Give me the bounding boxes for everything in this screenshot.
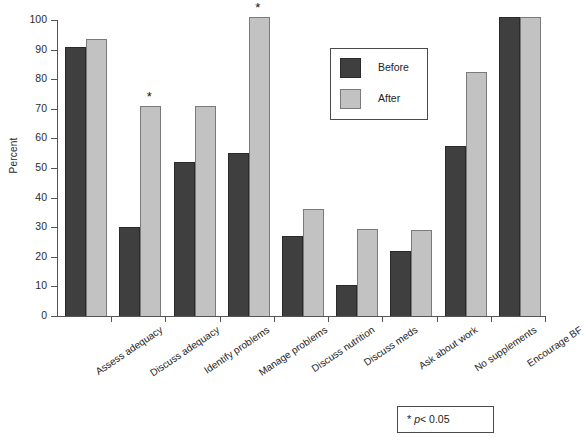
y-axis-tick-label: 80 — [35, 72, 47, 84]
significance-star-icon: * — [255, 1, 260, 14]
bar-after — [140, 106, 161, 316]
y-axis-title: Percent — [8, 121, 19, 191]
x-axis-tick — [382, 316, 383, 322]
y-axis-tick: 90 — [51, 50, 57, 51]
x-axis-tick — [491, 316, 492, 322]
bar-before — [390, 251, 411, 316]
y-axis-tick-label: 30 — [35, 220, 47, 232]
bar-after — [249, 17, 270, 316]
x-axis-label: No supplements — [472, 324, 538, 374]
y-axis-line — [57, 20, 58, 317]
footnote-star-icon: * — [407, 413, 411, 425]
bar-before — [499, 17, 520, 316]
y-axis-tick-label: 10 — [35, 279, 47, 291]
bar-before — [228, 153, 249, 316]
x-axis-label: Ask about work — [417, 324, 480, 371]
bar-before — [336, 285, 357, 316]
bar-after — [411, 230, 432, 316]
legend-label-before: Before — [378, 61, 409, 73]
y-axis-tick-label: 40 — [35, 191, 47, 203]
bar-after — [466, 72, 487, 316]
y-axis-tick: 0 — [51, 316, 57, 317]
bar-before — [174, 162, 195, 316]
bar-before — [282, 236, 303, 316]
bar-after — [303, 209, 324, 316]
y-axis-tick: 20 — [51, 257, 57, 258]
y-axis-tick: 10 — [51, 286, 57, 287]
bar-group: * — [119, 20, 161, 316]
y-axis-tick-label: 0 — [41, 309, 47, 321]
footnote-text: * p< 0.05 — [407, 413, 450, 425]
significance-footnote: * p< 0.05 — [397, 406, 494, 433]
y-axis-tick: 60 — [51, 138, 57, 139]
bar-group — [282, 20, 324, 316]
bar-after — [195, 106, 216, 316]
y-axis-tick: 40 — [51, 198, 57, 199]
bar-group — [65, 20, 107, 316]
bar-before — [65, 47, 86, 316]
bar-after — [86, 39, 107, 316]
x-axis-tick — [111, 316, 112, 322]
plot-area: 0102030405060708090100 ** — [57, 20, 545, 317]
y-axis-tick-label: 100 — [29, 13, 47, 25]
x-axis-tick — [328, 316, 329, 322]
bar-before — [445, 146, 466, 316]
chart-legend: Before After — [330, 48, 428, 120]
x-axis-line — [57, 316, 545, 317]
x-axis-tick — [165, 316, 166, 322]
x-axis-tick — [545, 316, 546, 322]
y-axis-tick: 70 — [51, 109, 57, 110]
legend-label-after: After — [378, 92, 400, 104]
bar-group: * — [228, 20, 270, 316]
x-axis-tick — [274, 316, 275, 322]
legend-swatch-after-icon — [340, 89, 361, 109]
bar-group — [445, 20, 487, 316]
significance-star-icon: * — [147, 90, 152, 103]
y-axis-tick-label: 50 — [35, 161, 47, 173]
y-axis-tick: 50 — [51, 168, 57, 169]
y-axis-tick-label: 70 — [35, 102, 47, 114]
y-axis-tick-label: 20 — [35, 250, 47, 262]
y-axis-tick-label: 90 — [35, 43, 47, 55]
bar-group — [174, 20, 216, 316]
y-axis-tick: 30 — [51, 227, 57, 228]
y-axis-tick: 80 — [51, 79, 57, 80]
footnote-comparison: < 0.05 — [420, 413, 450, 425]
legend-swatch-before-icon — [340, 58, 361, 78]
x-axis-tick — [437, 316, 438, 322]
bar-after — [357, 229, 378, 316]
x-axis-tick — [220, 316, 221, 322]
y-axis-tick: 100 — [51, 20, 57, 21]
bar-before — [119, 227, 140, 316]
bar-after — [520, 17, 541, 316]
y-axis-tick-label: 60 — [35, 131, 47, 143]
bar-group — [499, 20, 541, 316]
